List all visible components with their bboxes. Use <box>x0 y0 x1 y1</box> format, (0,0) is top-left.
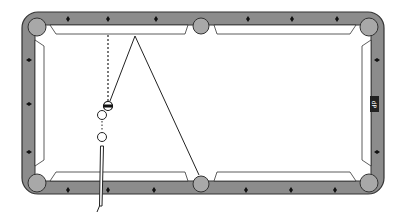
billiards-diagram: dP <box>0 0 403 217</box>
pocket-bottom-left <box>28 174 46 192</box>
table-cloth <box>35 25 371 181</box>
ghost-ball-2 <box>98 133 107 142</box>
pocket-top-left <box>28 18 46 36</box>
ghost-ball-1 <box>98 111 107 120</box>
table-drawing <box>0 0 403 217</box>
object-ball <box>104 102 113 111</box>
pocket-top-right <box>360 18 378 36</box>
pocket-bottom-right <box>360 174 378 192</box>
rail-label-text: dP <box>370 100 379 107</box>
pocket-top-middle <box>193 18 209 34</box>
rail-label: dP <box>370 96 379 112</box>
pocket-bottom-middle <box>193 176 209 192</box>
